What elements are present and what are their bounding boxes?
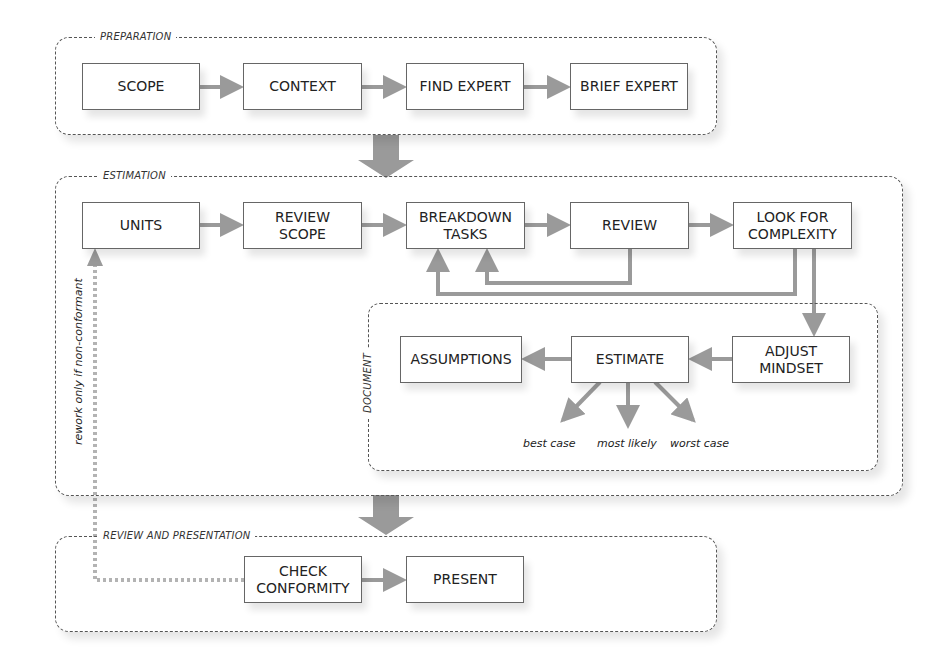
node-assumptions[interactable]: ASSUMPTIONS: [400, 336, 522, 383]
rework-label: rework only if non-conformant: [72, 278, 85, 445]
node-present[interactable]: PRESENT: [406, 556, 524, 603]
node-estimate[interactable]: ESTIMATE: [571, 336, 689, 383]
document-label: DOCUMENT: [362, 348, 373, 418]
node-find-expert[interactable]: FIND EXPERT: [406, 63, 524, 110]
most-likely-label: most likely: [597, 437, 657, 450]
node-brief-expert[interactable]: BRIEF EXPERT: [570, 63, 688, 110]
node-units[interactable]: UNITS: [82, 202, 200, 249]
node-review[interactable]: REVIEW: [570, 202, 689, 249]
review-presentation-group: [55, 536, 717, 632]
node-look-for-complexity[interactable]: LOOK FOR COMPLEXITY: [733, 202, 852, 249]
node-adjust-mindset[interactable]: ADJUST MINDSET: [732, 336, 850, 383]
stage-arrow-preparation-estimation: [358, 135, 414, 178]
estimation-label: ESTIMATION: [98, 170, 171, 181]
best-case-label: best case: [523, 437, 576, 450]
node-scope[interactable]: SCOPE: [82, 63, 200, 110]
node-review-scope[interactable]: REVIEW SCOPE: [243, 202, 362, 249]
stage-arrow-estimation-review: [358, 495, 414, 535]
review-presentation-label: REVIEW AND PRESENTATION: [98, 530, 255, 541]
node-context[interactable]: CONTEXT: [243, 63, 362, 110]
preparation-label: PREPARATION: [95, 31, 176, 42]
node-check-conformity[interactable]: CHECK CONFORMITY: [244, 556, 362, 603]
worst-case-label: worst case: [670, 437, 729, 450]
node-breakdown-tasks[interactable]: BREAKDOWN TASKS: [406, 202, 525, 249]
